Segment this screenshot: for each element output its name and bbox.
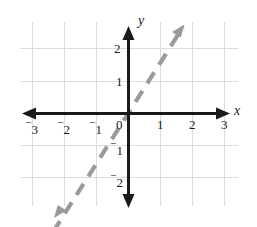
y-tick-label-2: 2 — [114, 42, 121, 55]
x-tick-value: 3 — [31, 122, 38, 137]
y-axis-arrowhead-bottom — [123, 194, 135, 208]
y-tick-value: 1 — [116, 143, 123, 158]
x-tick-value: 1 — [95, 122, 102, 137]
x-tick-label-3: 3 — [221, 118, 228, 131]
x-tick-label--3: ⁻3 — [25, 118, 38, 136]
x-tick-label--1: ⁻1 — [89, 118, 102, 136]
y-tick-label-1: 1 — [116, 75, 123, 88]
x-tick-label-2: 2 — [189, 118, 196, 131]
y-axis-name-label: y — [138, 14, 144, 28]
graph-canvas — [0, 0, 257, 227]
x-tick-label-1: 1 — [157, 118, 164, 131]
origin-label-0: 0 — [116, 118, 123, 131]
coordinate-plane-figure: ⁻3 ⁻2 ⁻1 0 1 2 3 2 1 ⁻1 ⁻2 x y — [0, 0, 257, 227]
y-tick-label--1: ⁻1 — [110, 139, 123, 157]
y-axis-arrowhead-top — [123, 26, 135, 40]
x-tick-value: 2 — [63, 122, 70, 137]
line-arrowhead-lower-left — [54, 205, 67, 218]
x-tick-label--2: ⁻2 — [57, 118, 70, 136]
y-tick-label--2: ⁻2 — [110, 171, 123, 189]
line-arrowhead-upper-right — [172, 25, 185, 38]
x-axis-name-label: x — [234, 104, 240, 118]
y-tick-value: 2 — [116, 175, 123, 190]
